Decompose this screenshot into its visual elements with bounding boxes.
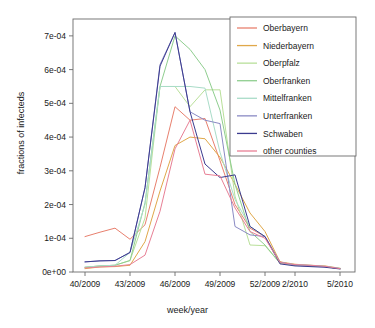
legend-label-mittelfranken: Mittelfranken (263, 93, 312, 103)
y-axis-tick-label: 2e-04 (44, 200, 66, 210)
legend-label-unterfranken: Unterfranken (263, 111, 312, 121)
legend-label-other-counties: other counties (263, 146, 316, 156)
y-axis-tick-label: 6e-04 (44, 65, 66, 75)
chart-figure: 0e+001e-042e-043e-044e-045e-046e-047e-04… (0, 0, 375, 328)
x-axis-tick-label: 2/2010 (282, 279, 308, 289)
legend-label-niederbayern: Niederbayern (263, 41, 314, 51)
y-axis-title: fractions of infecteds (16, 83, 26, 183)
y-axis-tick-label: 5e-04 (44, 98, 66, 108)
series-line-niederbayern (85, 137, 340, 269)
x-axis-tick-label: 46/2009 (160, 279, 191, 289)
x-axis-title: week/year (0, 305, 375, 315)
x-axis-tick-label: 49/2009 (205, 279, 236, 289)
y-axis-tick-label: 3e-04 (44, 166, 66, 176)
y-axis-tick-label: 7e-04 (44, 31, 66, 41)
y-axis-tick-label: 4e-04 (44, 132, 66, 142)
x-axis-tick-label: 52/2009 (250, 279, 281, 289)
x-axis-tick-label: 5/2010 (327, 279, 353, 289)
y-axis-tick-label: 0e+00 (42, 267, 66, 277)
legend-label-oberbayern: Oberbayern (263, 23, 308, 33)
y-axis-tick-label: 1e-04 (44, 233, 66, 243)
legend-label-oberpfalz: Oberpfalz (263, 58, 300, 68)
x-axis-tick-label: 43/2009 (115, 279, 146, 289)
legend-label-schwaben: Schwaben (263, 129, 303, 139)
x-axis-tick-label: 40/2009 (70, 279, 101, 289)
line-chart-canvas: 0e+001e-042e-043e-044e-045e-046e-047e-04… (0, 0, 375, 328)
legend-label-oberfranken: Oberfranken (263, 76, 311, 86)
